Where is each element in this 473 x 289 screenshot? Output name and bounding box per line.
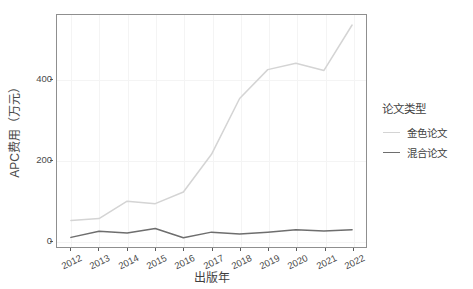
x-tick-mark <box>212 248 213 251</box>
y-tick-label: 0 <box>22 236 52 246</box>
x-axis-ticks: 2012201320142015201620172018201920202021… <box>56 248 367 270</box>
x-tick-mark <box>325 248 326 251</box>
chart-container: APC费用（万元） 0200400 2012201320142015201620… <box>0 0 473 289</box>
y-axis-ticks: 0200400 <box>18 0 52 289</box>
x-tick-mark <box>127 248 128 251</box>
legend-item-label: 混合论文 <box>407 145 447 160</box>
legend-item[interactable]: 金色论文 <box>382 124 472 141</box>
legend-line-swatch-icon <box>382 126 401 140</box>
x-tick-mark <box>155 248 156 251</box>
legend: 论文类型 金色论文混合论文 <box>382 100 472 164</box>
legend-line-swatch-icon <box>382 146 401 160</box>
x-tick-mark <box>240 248 241 251</box>
y-tick-label: 400 <box>22 74 52 84</box>
series-line <box>71 229 352 238</box>
legend-item-label: 金色论文 <box>407 125 447 140</box>
legend-items: 金色论文混合论文 <box>382 124 472 161</box>
x-tick-mark <box>70 248 71 251</box>
plot-panel <box>56 14 367 248</box>
x-tick-mark <box>296 248 297 251</box>
series-line <box>71 25 352 221</box>
legend-title: 论文类型 <box>382 100 472 116</box>
x-axis-title: 出版年 <box>56 268 367 285</box>
x-tick-mark <box>183 248 184 251</box>
y-tick-label: 200 <box>22 155 52 165</box>
x-tick-mark <box>268 248 269 251</box>
series-layer <box>57 15 366 247</box>
x-tick-mark <box>353 248 354 251</box>
legend-item[interactable]: 混合论文 <box>382 144 472 161</box>
x-tick-mark <box>98 248 99 251</box>
